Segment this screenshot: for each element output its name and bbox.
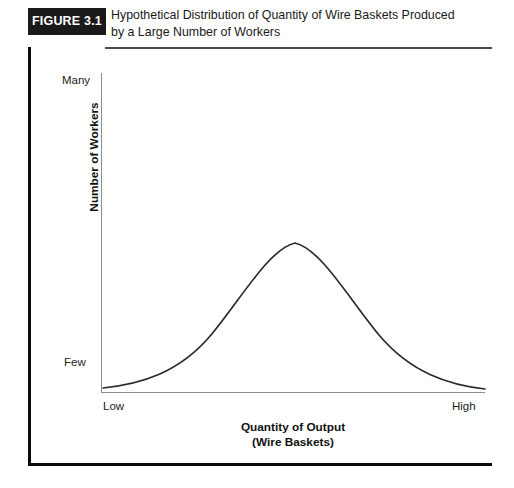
x-axis-title-line-2: (Wire Baskets) (101, 435, 485, 450)
figure-container: FIGURE 3.1 Hypothetical Distribution of … (0, 0, 514, 488)
x-axis-tick-label-low: Low (103, 400, 124, 412)
figure-frame-left-border (28, 47, 31, 466)
distribution-curve-svg (101, 73, 485, 394)
x-axis-tick-label-high: High (452, 400, 476, 412)
y-axis-title: Number of Workers (87, 92, 101, 222)
x-axis-title-line-1: Quantity of Output (101, 420, 485, 435)
figure-number-badge: FIGURE 3.1 (28, 8, 106, 35)
x-axis-title: Quantity of Output (Wire Baskets) (101, 420, 485, 450)
figure-title: Hypothetical Distribution of Quantity of… (111, 7, 493, 40)
title-divider-rule (105, 47, 492, 49)
figure-title-line-1: Hypothetical Distribution of Quantity of… (111, 7, 493, 24)
figure-title-line-2: by a Large Number of Workers (111, 24, 493, 41)
figure-frame-bottom-border (28, 463, 492, 466)
bell-curve-path (103, 243, 485, 389)
plot-area (101, 73, 485, 394)
